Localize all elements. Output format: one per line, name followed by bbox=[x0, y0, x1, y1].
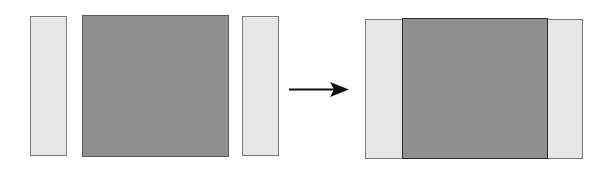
before-right-panel bbox=[242, 16, 279, 156]
after-left-panel bbox=[365, 19, 404, 159]
right-arrow-icon bbox=[286, 80, 352, 100]
before-left-panel bbox=[30, 16, 67, 156]
before-center-block bbox=[82, 15, 229, 157]
after-right-panel bbox=[545, 19, 583, 159]
after-center-block bbox=[402, 18, 548, 159]
